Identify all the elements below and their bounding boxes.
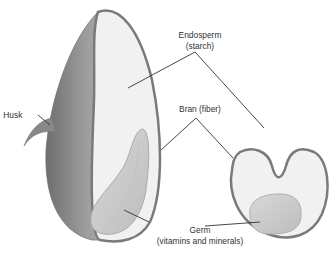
endosperm-label-line1: Endosperm [174, 29, 227, 40]
germ-cross-section [250, 194, 301, 234]
endosperm-label-line2: (starch) [174, 40, 227, 51]
grain-kernel-diagram [0, 0, 332, 253]
husk-label: Husk [3, 109, 22, 120]
germ-label-line1: Germ [147, 224, 253, 235]
germ-label: Germ (vitamins and minerals) [147, 224, 253, 246]
bran-leader [161, 118, 233, 158]
bran-label: Bran (fiber) [174, 103, 227, 114]
longitudinal-kernel [24, 11, 160, 242]
germ-label-line2: (vitamins and minerals) [147, 235, 253, 246]
endosperm-label: Endosperm (starch) [174, 29, 227, 51]
